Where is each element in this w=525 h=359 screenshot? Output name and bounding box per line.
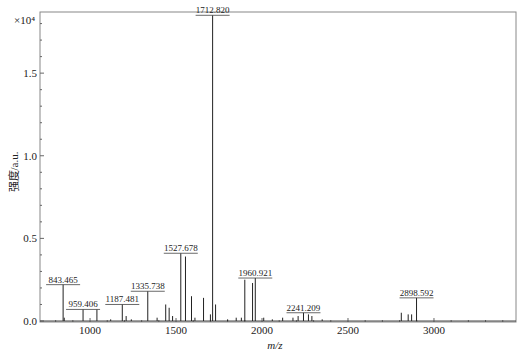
- peak-label: 1960.921: [238, 268, 272, 278]
- x-tick-label: 2000: [251, 324, 274, 336]
- peak-label: 843.465: [48, 275, 78, 285]
- peak-label: 959.406: [68, 299, 98, 309]
- x-tick-label: 1500: [165, 324, 188, 336]
- y-axis: 0.00.51.01.5: [23, 24, 44, 327]
- y-tick-label: 1.0: [23, 150, 37, 162]
- peak-label: 1335.738: [131, 281, 165, 291]
- plot-frame: [40, 12, 516, 322]
- peaks: [40, 15, 516, 321]
- x-tick-label: 1000: [79, 324, 102, 336]
- y-tick-label: 0.5: [23, 232, 37, 244]
- y-axis-label: 强度/a.u.: [7, 151, 20, 192]
- peak-label: 2241.209: [287, 303, 321, 313]
- x-tick-label: 3000: [423, 324, 446, 336]
- peak-label: 1187.481: [106, 294, 139, 304]
- peak-labels: 843.465959.4061187.4811335.7381527.67817…: [46, 5, 433, 312]
- x-axis-label: m/z: [267, 339, 283, 351]
- peak-label: 1712.820: [196, 5, 230, 15]
- mass-spectrum-chart: 0.00.51.01.5 10001500200025003000 843.46…: [0, 0, 525, 359]
- y-tick-label: 0.0: [23, 315, 37, 327]
- x-tick-label: 2500: [337, 324, 360, 336]
- peak-label: 2898.592: [400, 288, 434, 298]
- peak-label: 1527.678: [164, 243, 198, 253]
- y-multiplier: ×10⁴: [14, 14, 35, 26]
- y-tick-label: 1.5: [23, 67, 37, 79]
